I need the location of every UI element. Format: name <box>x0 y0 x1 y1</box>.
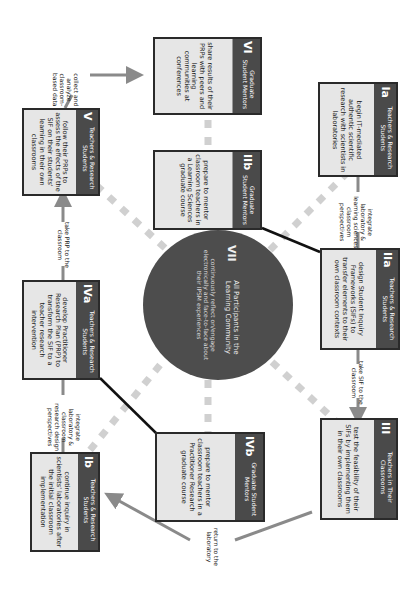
stage-iia-box: IIa Teachers & Research Students design … <box>320 248 400 350</box>
stage-number: IIa <box>383 252 394 268</box>
stage-role: Teachers & Research Students <box>381 272 395 346</box>
stage-iii-box: III Teachers in Their Classrooms test th… <box>320 418 398 520</box>
stage-role: Graduate Student Mentors <box>243 460 257 518</box>
stage-header: Ib Teachers & Research Students <box>78 452 100 552</box>
stage-ia-box: Ia Teachers & Research Students begin IT… <box>318 82 398 177</box>
stage-number: Ia <box>381 86 392 98</box>
stage-number: VI <box>242 41 253 54</box>
stage-role: Teachers & Research Students <box>82 472 96 548</box>
stage-header: VI Graduate Student Mentors <box>232 37 262 115</box>
stage-description: continuously reflect on/engage electroni… <box>196 245 218 365</box>
stage-ib-box: Ib Teachers & Research Students continue… <box>30 452 100 552</box>
stage-iva-box: IVa Teachers & Research Students develop… <box>22 280 100 380</box>
connector-label-v-vi: collect and analyze classroom-based data <box>51 65 79 115</box>
stage-header: Ia Teachers & Research Students <box>374 82 398 177</box>
stage-number: IIb <box>242 154 253 170</box>
stage-role: Graduate Student Mentors <box>240 58 254 111</box>
circle-content: VII All Participants in the Learning Com… <box>196 245 240 365</box>
connector-label-ib-iva: integrate laboratory & classroom researc… <box>47 399 81 455</box>
stage-role: Teachers & Research Students <box>379 102 393 173</box>
stage-role: Teachers in Their Classrooms <box>379 438 393 516</box>
stage-description: continue inquiry in scientists' laborato… <box>30 452 78 552</box>
stage-header: IVb Graduate Student Mentors <box>235 432 265 522</box>
stage-number: Ib <box>84 456 95 468</box>
stage-description: share results of their PRPs with peers a… <box>153 37 232 115</box>
stage-description: prepare to mentor classroom teachers in … <box>153 150 232 230</box>
stage-header: IVa Teachers & Research Students <box>76 280 100 380</box>
stage-description: begin IT-mediated authentic scientific r… <box>318 82 374 177</box>
stage-v-box: V Teachers & Research Students follow th… <box>22 108 100 196</box>
connector-label-iia-iii: take SIF to the classroom <box>350 358 364 408</box>
connector-label-ia-iia: integrate laboratory & learning sciences… <box>339 192 373 252</box>
stage-role: Teachers & Research Students <box>81 307 95 376</box>
stage-header: V Teachers & Research Students <box>76 108 100 196</box>
learning-community-circle: VII All Participants in the Learning Com… <box>143 230 293 380</box>
stage-role: Graduate Student Mentors <box>240 174 254 226</box>
stage-description: develop Practitioner Research Plan (PRP)… <box>22 280 76 380</box>
stage-number: V <box>83 112 94 121</box>
stage-vi-box: VI Graduate Student Mentors share result… <box>153 37 262 115</box>
stage-role: Teachers & Research Students <box>81 125 95 192</box>
stage-description: prepare to mentor classroom teachers in … <box>155 432 235 522</box>
stage-description: test the feasibility of their SIFs by im… <box>320 418 374 520</box>
stage-number: III <box>381 422 392 434</box>
stage-ivb-box: IVb Graduate Student Mentors prepare to … <box>155 432 265 522</box>
stage-iib-box: IIb Graduate Student Mentors prepare to … <box>153 150 262 230</box>
connector-label-iii-ib: return to the laboratory <box>205 525 219 569</box>
connector-label-iva-v: take PRP to the classroom <box>56 222 70 268</box>
stage-number: IVb <box>245 436 256 456</box>
stage-header: IIb Graduate Student Mentors <box>232 150 262 230</box>
stage-header: IIa Teachers & Research Students <box>376 248 400 350</box>
stage-header: III Teachers in Their Classrooms <box>374 418 398 520</box>
stage-number: VII <box>226 245 237 262</box>
stage-role: All Participants in the Learning Communi… <box>223 270 240 365</box>
circle-title: VII All Participants in the Learning Com… <box>223 245 240 365</box>
stage-number: IVa <box>83 284 94 303</box>
stage-description: follow their PRPs to assess the effects … <box>22 108 76 196</box>
stage-description: design Student Inquiry Frameworks (SIFs)… <box>320 248 376 350</box>
